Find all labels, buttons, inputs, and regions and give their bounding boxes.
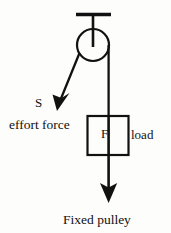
- diagram-caption: Fixed pulley: [63, 213, 131, 227]
- effort-rope: [60, 53, 80, 101]
- effort-force-symbol: S: [35, 96, 42, 109]
- fixed-pulley-diagram: S effort force F load Fixed pulley: [0, 0, 171, 233]
- load-label: load: [131, 128, 153, 141]
- effort-force-label: effort force: [9, 118, 70, 132]
- load-block-force-symbol: F: [101, 127, 108, 140]
